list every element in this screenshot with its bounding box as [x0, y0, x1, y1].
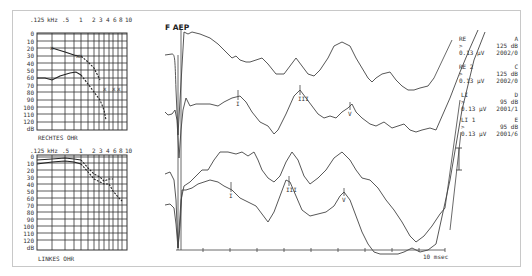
- audiogram-grid: [37, 155, 127, 250]
- freq-label: 3: [99, 16, 103, 23]
- marker: x: [79, 52, 83, 59]
- time-axis-label: 10 msec: [423, 253, 449, 260]
- freq-label: .5: [62, 16, 70, 23]
- db-label: 70: [27, 202, 35, 209]
- freq-label: .5: [62, 147, 70, 154]
- db-label: 50: [27, 188, 35, 195]
- db-label: 40: [27, 181, 35, 188]
- db-label: 50: [27, 67, 35, 74]
- no-response-marker: x: [103, 85, 107, 92]
- stim-level: 125 dB: [496, 70, 518, 77]
- time-axis: 10 msec: [176, 248, 449, 260]
- freq-label: 3: [99, 147, 103, 154]
- trace-legend-c: RE 2 C > 125 dB 0.13 µV 2002/0: [459, 63, 518, 85]
- peak-label-i: I: [229, 192, 233, 199]
- db-label: dB: [27, 244, 35, 251]
- freq-label: 10: [125, 147, 133, 154]
- db-label: 20: [27, 45, 35, 52]
- db-label: 30: [27, 174, 35, 181]
- sweep-count: 2001/1: [496, 105, 518, 112]
- db-label: 60: [27, 74, 35, 81]
- db-axis-labels: 0 10 20 30 40 50 60 70 80 90 100 110 120…: [23, 30, 34, 132]
- no-response-marker: x: [112, 85, 116, 92]
- db-label: 120: [23, 237, 34, 244]
- freq-unit: kHz: [47, 16, 58, 23]
- freq-label: 2: [92, 147, 96, 154]
- db-label: 60: [27, 195, 35, 202]
- db-label: 80: [27, 209, 35, 216]
- freq-label: 6: [113, 16, 117, 23]
- freq-axis-labels: .125 kHz .5 1 2 3 4 6 8 10: [30, 147, 133, 154]
- db-label: 80: [27, 89, 35, 96]
- polarity: >: [459, 70, 463, 77]
- peak-label-v: V: [342, 196, 346, 203]
- db-label: 100: [23, 104, 34, 111]
- sweep-count: 2002/0: [496, 49, 518, 56]
- amp-scale: 0.13 µV: [459, 49, 485, 57]
- no-response-marker: x: [117, 85, 121, 92]
- sweep-count: 2002/0: [496, 77, 518, 84]
- freq-unit: kHz: [47, 147, 58, 154]
- freq-label: 1: [79, 16, 83, 23]
- trace-li-d: [165, 152, 445, 248]
- audiogram-left: .125 kHz .5 1 2 3 4 6 8 10 0 10 20 30 40…: [23, 147, 132, 262]
- channel-label: LI 1: [461, 116, 476, 123]
- db-axis-labels: 0 10 20 30 40 50 60 70 80 90 100 110 120…: [23, 153, 34, 251]
- db-label: 20: [27, 167, 35, 174]
- db-label: 90: [27, 216, 35, 223]
- sweep-count: 2001/6: [496, 130, 518, 137]
- connector-line: [445, 100, 460, 208]
- trace-letter: A: [514, 35, 518, 42]
- db-label: 120: [23, 118, 34, 125]
- db-label: 10: [27, 38, 35, 45]
- db-label: 110: [23, 111, 34, 118]
- chart-title: F AEP: [165, 23, 190, 32]
- peak-label-i: I: [236, 100, 240, 107]
- stim-level: 95 dB: [500, 123, 518, 130]
- peak-label-iii: III: [286, 186, 297, 193]
- channel-label: RE 2: [459, 63, 474, 70]
- stim-level: 95 dB: [500, 98, 518, 105]
- trace-letter: D: [514, 91, 518, 98]
- ear-label: LINKES OHR: [38, 255, 75, 262]
- trace-legend-d: LI D > 95 dB 0.13 µV 2001/1: [461, 91, 518, 113]
- freq-label: 8: [119, 147, 123, 154]
- peak-markers-lower: I III V: [229, 176, 346, 203]
- trace-re2-c: [165, 30, 478, 158]
- db-label: 100: [23, 223, 34, 230]
- freq-label: 4: [106, 147, 110, 154]
- audiogram-curves: x x x x x x: [37, 44, 121, 120]
- freq-label: 6: [113, 147, 117, 154]
- trace-li1-e: [165, 32, 485, 254]
- freq-label: 1: [79, 147, 83, 154]
- db-label: 0: [30, 30, 34, 37]
- ear-label: RECHTES OHR: [38, 134, 78, 141]
- polarity: >: [461, 98, 465, 105]
- db-label: 70: [27, 82, 35, 89]
- freq-label: .125: [30, 16, 45, 23]
- trace-legend-e: LI 1 E > 95 dB 0.13 µV 2001/6: [461, 116, 518, 138]
- curve-2-dashed: [81, 164, 122, 201]
- db-label: 90: [27, 96, 35, 103]
- marker: x: [50, 44, 54, 51]
- db-label: 10: [27, 160, 35, 167]
- peak-label-iii: III: [298, 95, 309, 102]
- db-label: 110: [23, 230, 34, 237]
- trace-letter: C: [514, 63, 518, 70]
- polarity: >: [459, 42, 463, 49]
- channel-label: RE: [459, 35, 467, 42]
- stim-level: 125 dB: [496, 42, 518, 49]
- channel-label: LI: [461, 91, 469, 98]
- polarity: >: [461, 123, 465, 130]
- peak-label-v: V: [348, 110, 352, 117]
- trace-letter: E: [514, 116, 518, 123]
- db-label: 40: [27, 60, 35, 67]
- amp-scale: 0.13 µV: [459, 77, 485, 85]
- lower-curve-dashed: [81, 75, 106, 120]
- trace-re-a: [165, 32, 434, 135]
- peak-markers-upper: I III V: [236, 85, 352, 117]
- db-label: 30: [27, 52, 35, 59]
- freq-label: 4: [106, 16, 110, 23]
- amp-scale: 0.13 µV: [461, 130, 487, 138]
- freq-label: 10: [125, 16, 133, 23]
